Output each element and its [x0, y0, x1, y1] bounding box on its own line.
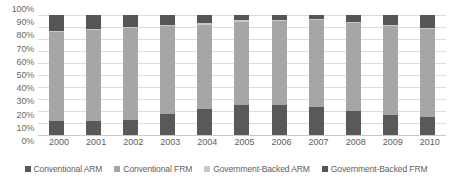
- legend-item[interactable]: Conventional ARM: [25, 164, 103, 174]
- plot-wrapper: 0%10%20%30%40%50%60%70%80%90%100%: [0, 0, 452, 158]
- bar-column[interactable]: [420, 15, 435, 135]
- bar-segment[interactable]: [49, 121, 64, 135]
- y-axis-tick-label: 30%: [17, 96, 34, 106]
- y-axis-tick-label: 40%: [17, 83, 34, 93]
- x-axis-tick-label: 2008: [346, 137, 361, 147]
- bar-column[interactable]: [86, 15, 101, 135]
- bar-column[interactable]: [123, 15, 138, 135]
- bar-column[interactable]: [346, 15, 361, 135]
- bar-segment[interactable]: [234, 105, 249, 135]
- bar-segment[interactable]: [346, 15, 361, 22]
- plot-area: [38, 15, 446, 135]
- bar-segment[interactable]: [123, 120, 138, 135]
- legend-item[interactable]: Conventional FRM: [114, 164, 192, 174]
- bar-segment[interactable]: [383, 26, 398, 115]
- y-axis-tick-label: 10%: [17, 123, 34, 133]
- y-axis-tick-label: 0%: [21, 136, 34, 146]
- bar-segment[interactable]: [197, 15, 212, 23]
- bar-segment[interactable]: [86, 121, 101, 135]
- x-axis-tick-label: 2000: [49, 137, 64, 147]
- bar-segment[interactable]: [383, 115, 398, 135]
- y-axis: 0%10%20%30%40%50%60%70%80%90%100%: [0, 9, 36, 141]
- bar-segment[interactable]: [86, 15, 101, 29]
- legend-swatch-icon: [114, 166, 120, 172]
- x-axis-tick-label: 2006: [272, 137, 287, 147]
- y-axis-tick-label: 60%: [17, 57, 34, 67]
- bar-segment[interactable]: [309, 107, 324, 135]
- x-axis-tick-label: 2010: [420, 137, 435, 147]
- bar-column[interactable]: [383, 15, 398, 135]
- bar-segment[interactable]: [49, 32, 64, 121]
- legend-label: Government-Backed FRM: [331, 164, 428, 174]
- bar-segment[interactable]: [309, 20, 324, 107]
- legend-label: Conventional ARM: [34, 164, 103, 174]
- y-axis-tick-label: 90%: [17, 17, 34, 27]
- bar-column[interactable]: [272, 15, 287, 135]
- y-axis-tick-label: 100%: [12, 4, 34, 14]
- x-axis-tick-label: 2005: [234, 137, 249, 147]
- bar-segment[interactable]: [383, 15, 398, 25]
- y-axis-tick-label: 80%: [17, 30, 34, 40]
- bar-column[interactable]: [309, 15, 324, 135]
- bar-segment[interactable]: [346, 23, 361, 111]
- x-axis-tick-label: 2009: [383, 137, 398, 147]
- bar-segment[interactable]: [234, 22, 249, 105]
- chart-legend: Conventional ARMConventional FRMGovernme…: [0, 160, 452, 178]
- bar-segment[interactable]: [420, 29, 435, 117]
- bar-segment[interactable]: [346, 111, 361, 135]
- bar-segment[interactable]: [123, 15, 138, 27]
- bar-segment[interactable]: [160, 114, 175, 135]
- bar-segment[interactable]: [197, 109, 212, 135]
- bar-segment[interactable]: [160, 26, 175, 114]
- bar-segment[interactable]: [420, 117, 435, 135]
- y-axis-tick-label: 70%: [17, 44, 34, 54]
- bar-segment[interactable]: [160, 15, 175, 25]
- legend-label: Government-Backed ARM: [213, 164, 310, 174]
- x-axis-tick-label: 2003: [160, 137, 175, 147]
- bar-column[interactable]: [234, 15, 249, 135]
- bar-column[interactable]: [197, 15, 212, 135]
- x-axis-tick-label: 2001: [86, 137, 101, 147]
- x-axis-tick-label: 2002: [123, 137, 138, 147]
- y-axis-tick-label: 50%: [17, 70, 34, 80]
- x-axis-tick-label: 2007: [309, 137, 324, 147]
- bar-column[interactable]: [49, 15, 64, 135]
- bar-segment[interactable]: [272, 105, 287, 135]
- legend-swatch-icon: [322, 166, 328, 172]
- x-axis-tick-label: 2004: [197, 137, 212, 147]
- bar-series-group: [38, 15, 446, 135]
- legend-item[interactable]: Government-Backed FRM: [322, 164, 428, 174]
- bar-segment[interactable]: [123, 28, 138, 120]
- bar-segment[interactable]: [86, 30, 101, 121]
- legend-swatch-icon: [25, 166, 31, 172]
- bar-segment[interactable]: [197, 25, 212, 109]
- bar-segment[interactable]: [272, 21, 287, 105]
- bar-column[interactable]: [160, 15, 175, 135]
- x-axis: 2000200120022003200420052006200720082009…: [38, 137, 446, 153]
- legend-swatch-icon: [204, 166, 210, 172]
- y-axis-tick-label: 20%: [17, 110, 34, 120]
- bar-segment[interactable]: [49, 15, 64, 31]
- legend-label: Conventional FRM: [123, 164, 192, 174]
- bar-segment[interactable]: [420, 15, 435, 28]
- stacked-bar-chart: 0%10%20%30%40%50%60%70%80%90%100% 200020…: [0, 0, 452, 183]
- legend-item[interactable]: Government-Backed ARM: [204, 164, 310, 174]
